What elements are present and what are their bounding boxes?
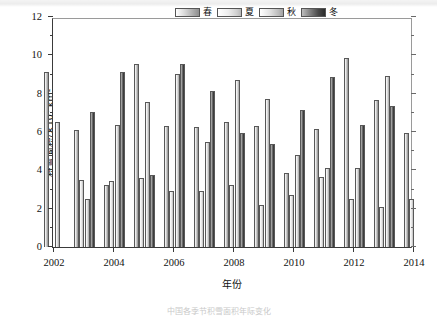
legend-item-spring[interactable]: 春 [175,8,212,17]
bar-2010-冬 [300,110,305,247]
y-tick-8: 8 [48,93,53,94]
bar-2004-秋 [115,125,120,247]
bar-2003-夏 [79,180,84,247]
bar-2008-春 [224,122,229,247]
bar-group-container [53,19,411,247]
y-minor-tick-right [411,74,414,75]
bar-2010-春 [284,173,289,247]
bar-2002-秋 [55,122,60,247]
y-tick-label: 8 [37,88,42,99]
figure-caption: 中国各季节积雪面积年际变化 [0,305,437,316]
bar-2004-冬 [120,72,125,247]
y-tick-12: 12 [48,16,53,17]
bar-2007-夏 [199,191,204,247]
plot-area: 024681012 2002200420062008201020122014 [52,18,412,248]
legend-swatch-winter [301,8,326,17]
legend-item-winter[interactable]: 冬 [301,8,338,17]
bar-2003-秋 [85,199,90,247]
bar-2012-春 [344,58,349,247]
bar-2007-春 [194,127,199,247]
x-tick-2006: 2006 [173,247,174,252]
bar-2005-春 [134,64,139,247]
legend-label-autumn: 秋 [287,8,296,17]
x-tick-label: 2014 [404,258,425,269]
bar-2012-夏 [349,199,354,247]
y-tick-right [411,169,416,170]
y-minor-tick-right [411,35,414,36]
bar-2007-秋 [205,142,210,247]
y-tick-6: 6 [48,131,53,132]
legend-label-spring: 春 [203,8,212,17]
bar-2013-夏 [379,207,384,247]
bar-2008-夏 [229,185,234,247]
bar-2002-春 [44,72,49,247]
bar-2007-冬 [210,91,215,247]
bar-2013-秋 [385,76,390,247]
bar-2011-春 [314,129,319,247]
x-tick-label: 2004 [104,258,125,269]
y-minor-tick [50,189,53,190]
y-tick-label: 6 [37,127,42,138]
legend-item-autumn[interactable]: 秋 [259,8,296,17]
x-tick-label: 2010 [284,258,305,269]
bar-2011-冬 [330,77,335,247]
bar-2012-秋 [355,168,360,247]
bar-2003-冬 [90,112,95,247]
x-tick-2004: 2004 [113,247,114,252]
bar-2009-春 [254,126,259,247]
bar-2014-春 [404,133,409,247]
bar-2006-夏 [169,191,174,247]
y-tick-label: 10 [32,50,43,61]
legend-swatch-summer [217,8,242,17]
y-minor-tick [50,74,53,75]
bar-2009-秋 [265,99,270,247]
bar-2013-冬 [390,106,395,247]
scan-artifact-strip [0,0,437,7]
y-minor-tick [50,35,53,36]
y-tick-label: 2 [37,203,42,214]
bar-2005-冬 [150,175,155,247]
y-minor-tick-right [411,227,414,228]
y-tick-right [411,93,416,94]
y-tick-label: 4 [37,165,42,176]
legend-label-summer: 夏 [245,8,254,17]
y-minor-tick [50,150,53,151]
legend-swatch-spring [175,8,200,17]
x-tick-label: 2008 [224,258,245,269]
bar-2011-秋 [325,168,330,247]
bar-2006-冬 [180,64,185,247]
bar-2003-春 [74,130,79,247]
bar-2004-夏 [109,181,114,247]
bar-2008-冬 [240,133,245,247]
bar-2006-秋 [175,74,180,247]
y-tick-10: 10 [48,54,53,55]
bar-2009-冬 [270,144,275,248]
bar-2006-春 [164,126,169,247]
legend-item-summer[interactable]: 夏 [217,8,254,17]
bar-2014-夏 [409,199,414,247]
bar-2011-夏 [319,177,324,247]
legend-label-winter: 冬 [329,8,338,17]
y-tick-label: 12 [32,12,43,23]
y-tick-right [411,208,416,209]
bar-2010-秋 [295,155,300,247]
y-minor-tick-right [411,150,414,151]
y-tick-right [411,54,416,55]
x-tick-2014: 2014 [413,247,414,252]
x-tick-label: 2006 [164,258,185,269]
bar-2010-夏 [289,195,294,247]
x-tick-label: 2012 [344,258,365,269]
y-tick-right [411,131,416,132]
y-minor-tick-right [411,189,414,190]
chart-legend: 春夏秋冬 [175,8,338,17]
x-tick-2010: 2010 [293,247,294,252]
x-tick-2012: 2012 [353,247,354,252]
y-minor-tick-right [411,112,414,113]
bar-2012-冬 [360,125,365,247]
legend-swatch-autumn [259,8,284,17]
y-tick-4: 4 [48,169,53,170]
x-tick-2002: 2002 [53,247,54,252]
x-axis-title: 年份 [52,276,412,291]
y-tick-label: 0 [37,242,42,253]
